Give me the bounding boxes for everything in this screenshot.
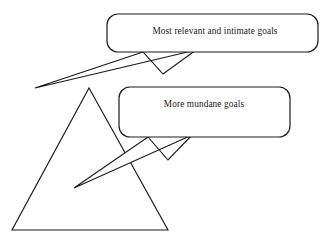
bottom-callout[interactable]: More mundane goals xyxy=(119,87,290,137)
top-callout-tail xyxy=(35,50,196,88)
diagram-canvas: More mundane goals Most relevant and int… xyxy=(0,0,325,246)
bottom-callout-tail xyxy=(74,135,192,188)
bottom-callout-tail-shape xyxy=(74,135,192,188)
diagram-svg: More mundane goals Most relevant and int… xyxy=(0,0,325,246)
top-callout-label: Most relevant and intimate goals xyxy=(152,26,277,36)
bottom-callout-body[interactable] xyxy=(119,87,290,137)
top-callout-tail-shape xyxy=(35,50,196,88)
top-callout[interactable]: Most relevant and intimate goals xyxy=(107,14,318,52)
bottom-callout-label: More mundane goals xyxy=(164,99,245,109)
